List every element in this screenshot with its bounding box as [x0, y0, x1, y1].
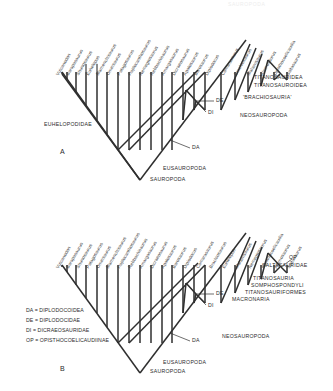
clade-label-saltasauridae: SALTASAURIDAE — [262, 263, 307, 268]
clade-label-titanosauriformes: TITANOSAURIFORMES — [245, 290, 306, 295]
clade-label-neosauropoda: NEOSAUROPODA — [222, 334, 269, 339]
key-item-di: DI = DICRAEOSAURIDAE — [26, 328, 89, 333]
node-abbrev-di: DI — [208, 110, 214, 115]
node-abbrev-da: DA — [192, 145, 200, 150]
node-abbrev-op: OP — [289, 255, 297, 260]
clade-label-titanosauroidea: TITANOSAUROIDEA — [254, 83, 307, 88]
key-item-op: OP = OPISTHOCOELICAUDIINAE — [26, 338, 109, 343]
clade-label-eusauropoda: EUSAUROPODA — [163, 360, 206, 365]
clade-label-eusauropoda: EUSAUROPODA — [163, 166, 206, 171]
clade-label-titanosauridea: TITANOSAURIDEA — [254, 75, 303, 80]
clade-label-euhelopodidae: EUHELOPODIDAE — [44, 122, 92, 127]
clade-label-sauropoda: SAUROPODA — [150, 177, 185, 182]
clade-label-somphospondyli: SOMPHOSPONDYLI — [251, 283, 304, 288]
clade-label-brachiosauria: 'BRACHIOSAURIA' — [243, 95, 292, 100]
sauropod-cladogram-figure: SAUROPODA — [0, 0, 333, 391]
clade-label-macronaria: MACRONARIA — [232, 297, 270, 302]
key-item-de: DE = DIPLODOCIDAE — [26, 318, 80, 323]
node-abbrev-da: DA — [192, 338, 200, 343]
key-item-da: DA = DIPLODOCOIDEA — [26, 308, 84, 313]
node-abbrev-de: DE — [216, 98, 224, 103]
clade-label-sauropoda: SAUROPODA — [150, 369, 185, 374]
clade-label-neosauropoda: NEOSAUROPODA — [240, 113, 287, 118]
panel-letter-a: A — [60, 148, 65, 155]
node-abbrev-di: DI — [208, 303, 214, 308]
clade-label-titanosauria: TITANOSAURIA — [253, 276, 294, 281]
panel-letter-b: B — [60, 365, 65, 372]
node-abbrev-de: DE — [216, 291, 224, 296]
